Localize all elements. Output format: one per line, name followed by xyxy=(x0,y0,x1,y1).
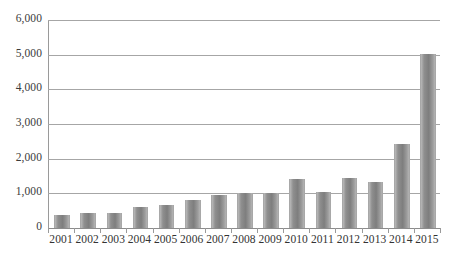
x-tick-label-2006: 2006 xyxy=(179,233,205,245)
gridline xyxy=(48,228,440,229)
y-tick-label: 5,000 xyxy=(0,47,42,59)
x-tick-label-2012: 2012 xyxy=(335,233,361,245)
x-axis-tick xyxy=(48,228,49,233)
x-tick-label-2007: 2007 xyxy=(205,233,231,245)
bar-2001[interactable] xyxy=(54,215,70,228)
bar-2002[interactable] xyxy=(80,213,96,228)
bar-2014[interactable] xyxy=(394,144,410,228)
y-tick-label: 2,000 xyxy=(0,151,42,163)
x-tick-label-2008: 2008 xyxy=(231,233,257,245)
x-tick-label-2001: 2001 xyxy=(48,233,74,245)
y-tick-label: 6,000 xyxy=(0,12,42,24)
bar-2013[interactable] xyxy=(368,182,384,228)
bar-2003[interactable] xyxy=(107,213,123,228)
x-tick-label-2005: 2005 xyxy=(153,233,179,245)
y-tick-label: 4,000 xyxy=(0,81,42,93)
x-axis-tick xyxy=(205,228,206,233)
y-tick-label: 3,000 xyxy=(0,116,42,128)
x-tick-label-2014: 2014 xyxy=(388,233,414,245)
gridline xyxy=(48,124,440,125)
x-axis-tick xyxy=(309,228,310,233)
gridline xyxy=(48,89,440,90)
x-tick-label-2010: 2010 xyxy=(283,233,309,245)
plot-area xyxy=(48,20,440,228)
gridline xyxy=(48,20,440,21)
bar-2008[interactable] xyxy=(237,193,253,228)
y-axis-labels: 01,0002,0003,0004,0005,0006,000 xyxy=(0,0,44,255)
x-axis-tick xyxy=(153,228,154,233)
x-axis-tick xyxy=(126,228,127,233)
x-axis-tick xyxy=(335,228,336,233)
x-axis-tick xyxy=(231,228,232,233)
bar-2006[interactable] xyxy=(185,200,201,228)
x-tick-label-2003: 2003 xyxy=(100,233,126,245)
y-tick-label: 0 xyxy=(0,220,42,232)
gridline xyxy=(48,55,440,56)
y-tick-label: 1,000 xyxy=(0,185,42,197)
x-axis-tick xyxy=(179,228,180,233)
x-axis-tick xyxy=(74,228,75,233)
x-tick-label-2004: 2004 xyxy=(126,233,152,245)
x-axis-labels: 2001200220032004200520062007200820092010… xyxy=(48,233,440,253)
x-tick-label-2002: 2002 xyxy=(74,233,100,245)
x-axis-tick xyxy=(440,228,441,233)
x-axis-tick xyxy=(388,228,389,233)
x-axis-tick xyxy=(362,228,363,233)
bar-2010[interactable] xyxy=(289,179,305,228)
bar-2004[interactable] xyxy=(133,207,149,228)
x-tick-label-2009: 2009 xyxy=(257,233,283,245)
bar-2012[interactable] xyxy=(342,178,358,228)
x-tick-label-2015: 2015 xyxy=(414,233,440,245)
x-tick-label-2013: 2013 xyxy=(362,233,388,245)
bar-chart: 01,0002,0003,0004,0005,0006,000 20012002… xyxy=(0,0,452,255)
bar-2011[interactable] xyxy=(316,192,332,228)
x-tick-label-2011: 2011 xyxy=(309,233,335,245)
x-axis-tick xyxy=(283,228,284,233)
x-axis-tick xyxy=(257,228,258,233)
bar-2005[interactable] xyxy=(159,205,175,228)
bar-2015[interactable] xyxy=(420,54,436,228)
x-axis-tick xyxy=(100,228,101,233)
x-axis-tick xyxy=(414,228,415,233)
bar-2007[interactable] xyxy=(211,195,227,228)
gridline xyxy=(48,159,440,160)
bar-2009[interactable] xyxy=(263,193,279,228)
